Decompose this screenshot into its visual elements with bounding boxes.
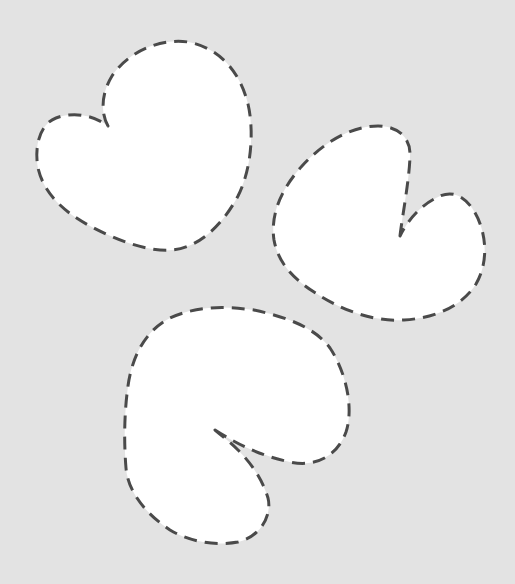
shapes-canvas (0, 0, 515, 584)
